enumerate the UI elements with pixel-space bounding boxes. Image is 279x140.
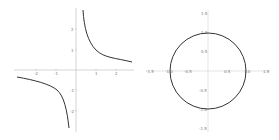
y-tick-label: 2 [71, 27, 74, 32]
x-tick-label: -0.5 [184, 69, 192, 74]
x-tick-label: 1 [95, 71, 98, 76]
y-tick-label: 1.5 [201, 11, 208, 16]
x-tick-label: 0.5 [224, 69, 231, 74]
x-tick-label: -1 [54, 71, 58, 76]
x-tick-label: 1.0 [244, 69, 251, 74]
y-tick-label: -2 [70, 109, 74, 114]
x-tick-label: -2 [34, 71, 38, 76]
hyperbola-branch-negative [17, 77, 69, 128]
y-ticks: 1.5 1.0 0.5 -0.5 -1.0 -1.5 [199, 11, 208, 131]
x-tick-label: 1.5 [263, 69, 270, 74]
y-tick-label: 1 [71, 48, 74, 53]
figure: -2 -1 1 2 2 1 -1 -2 [0, 0, 279, 140]
x-tick-label: -1.0 [165, 69, 173, 74]
y-tick-label: -0.5 [199, 88, 207, 93]
y-tick-label: 1.0 [201, 30, 208, 35]
y-tick-label: -1.5 [199, 126, 207, 131]
x-tick-label: -1.5 [146, 69, 154, 74]
y-tick-label: -1 [70, 88, 74, 93]
hyperbola-branch-positive [83, 10, 132, 62]
chart-hyperbola: -2 -1 1 2 2 1 -1 -2 [14, 8, 134, 132]
charts-svg: -2 -1 1 2 2 1 -1 -2 [0, 0, 279, 140]
y-tick-label: 0.5 [201, 49, 208, 54]
x-tick-label: 2 [115, 71, 118, 76]
chart-circle: -1.5 -1.0 -0.5 0.5 1.0 1.5 1.5 1.0 0.5 -… [146, 10, 270, 132]
